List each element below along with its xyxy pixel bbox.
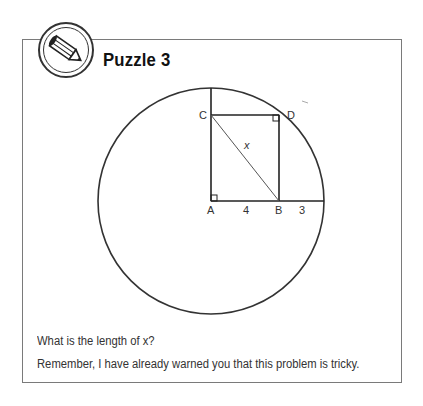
question-text: What is the length of x? <box>37 334 155 348</box>
label-x: x <box>243 139 250 151</box>
label-b: B <box>275 204 282 216</box>
label-a: A <box>207 204 215 216</box>
diagonal-x <box>211 115 279 201</box>
note-text: Remember, I have already warned you that… <box>37 357 359 371</box>
label-d: D <box>287 109 295 121</box>
label-b-edge: 3 <box>299 204 305 216</box>
stray-mark <box>302 101 308 103</box>
right-angle-a <box>211 195 217 201</box>
right-angle-d <box>273 115 279 121</box>
label-ab: 4 <box>243 204 249 216</box>
label-c: C <box>199 109 207 121</box>
